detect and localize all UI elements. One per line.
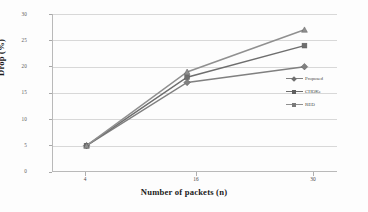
y-tick-label: 15 xyxy=(3,89,27,95)
legend-label: Proposed xyxy=(305,76,323,81)
y-tick-label: 5 xyxy=(3,142,27,148)
x-tick-label: 30 xyxy=(298,176,328,182)
legend-label: RED xyxy=(305,102,315,107)
y-axis-title: Drop (%) xyxy=(0,39,6,76)
chart-figure: 30 25 20 15 10 5 0 Drop (%) 4 16 30 Numb… xyxy=(0,0,368,212)
legend-item-choke[interactable]: CHOKe xyxy=(286,85,364,98)
y-tick-mark xyxy=(49,172,52,173)
data-point-marker xyxy=(302,43,307,48)
y-tick-label: 30 xyxy=(3,11,27,17)
data-point-marker xyxy=(302,27,308,32)
y-tick-label: 25 xyxy=(3,37,27,43)
data-point-marker xyxy=(301,63,308,70)
x-tick-label: 4 xyxy=(70,176,100,182)
legend-marker-icon xyxy=(286,77,303,81)
legend-item-proposed[interactable]: Proposed xyxy=(286,72,364,85)
x-tick-label: 16 xyxy=(181,176,211,182)
legend-marker-icon xyxy=(286,90,303,94)
series-line xyxy=(87,67,305,146)
y-tick-label: 10 xyxy=(3,116,27,122)
legend-marker-icon xyxy=(286,103,303,107)
legend-item-red[interactable]: RED xyxy=(286,98,364,111)
series-line xyxy=(87,46,305,146)
y-tick-label: 0 xyxy=(3,168,27,174)
x-axis-title: Number of packets (n) xyxy=(0,187,368,197)
y-tick-label: 20 xyxy=(3,63,27,69)
legend-label: CHOKe xyxy=(305,89,321,94)
series-line xyxy=(87,30,305,146)
chart-legend: Proposed CHOKe RED xyxy=(286,72,364,111)
data-point-marker xyxy=(185,75,190,80)
